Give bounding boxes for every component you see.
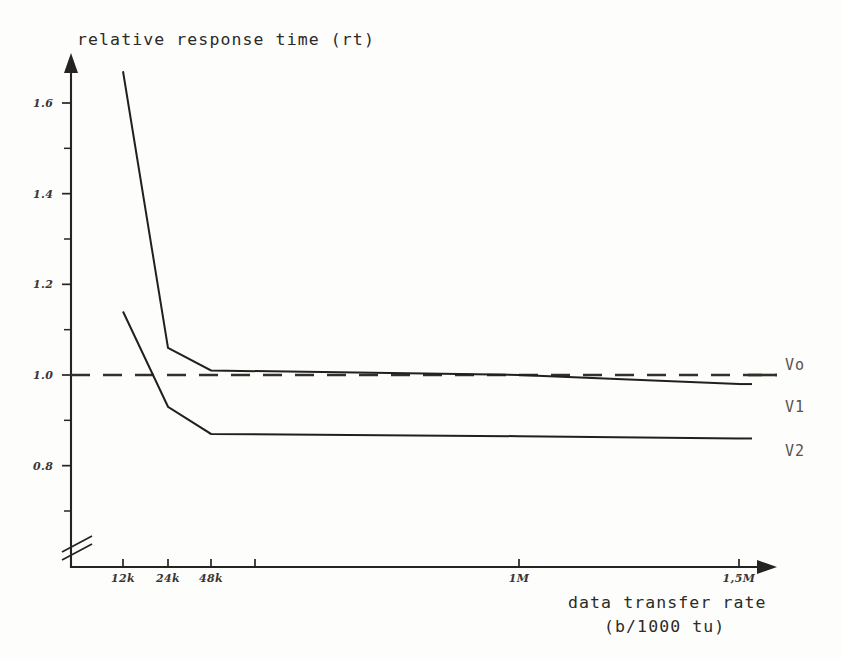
x-tick-label-0: 12k [111, 572, 135, 585]
x-tick-label-2: 48k [199, 572, 223, 585]
y-axis-title: relative response time (rt) [77, 30, 375, 49]
x-tick-group: 12k24k48k1M1,5M [111, 559, 756, 585]
chart-figure: 1.61.41.21.00.8 12k24k48k1M1,5M Vo V1 V2… [0, 0, 841, 661]
legend-label-vo: Vo [785, 356, 805, 374]
series-group [71, 71, 777, 438]
legend-label-v2: V2 [785, 442, 805, 460]
x-tick-label-1: 24k [155, 572, 180, 585]
series-line-v1 [123, 71, 739, 384]
x-axis-arrow-icon [757, 560, 777, 574]
legend: Vo V1 V2 [748, 356, 805, 460]
y-tick-label-2: 1.2 [33, 278, 53, 291]
y-tick-label-4: 0.8 [33, 460, 53, 473]
y-tick-label-0: 1.6 [33, 97, 53, 110]
x-tick-label-4: 1M [509, 572, 530, 585]
y-tick-label-1: 1.4 [33, 188, 53, 201]
axis-break-icon [62, 536, 92, 560]
y-axis-arrow-icon [64, 53, 78, 73]
y-axis [64, 53, 78, 567]
x-tick-label-5: 1,5M [723, 572, 756, 585]
x-axis-title-line1: data transfer rate [568, 593, 767, 612]
legend-label-v1: V1 [785, 398, 805, 416]
x-axis-title-line2: (b/1000 tu) [604, 617, 725, 636]
y-tick-label-3: 1.0 [33, 369, 53, 382]
y-tick-group: 1.61.41.21.00.8 [33, 97, 71, 473]
